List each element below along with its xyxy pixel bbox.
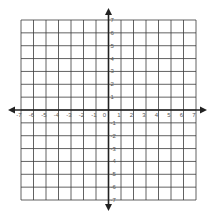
y-tick-label: -1 <box>111 120 117 126</box>
y-tick-label: -5 <box>111 171 117 177</box>
x-tick-label: -5 <box>41 112 47 118</box>
arrow-down-icon <box>105 204 112 211</box>
x-tick-label: -1 <box>91 112 97 118</box>
x-tick-label: -2 <box>79 112 85 118</box>
coordinate-plane: -7-6-5-4-3-2-101234567 7654321-1-2-3-4-5… <box>0 0 211 219</box>
x-tick-label: -4 <box>54 112 60 118</box>
arrow-left-icon <box>8 107 15 114</box>
y-tick-label: -6 <box>111 184 117 190</box>
x-tick-label: 0 <box>103 112 107 118</box>
arrow-right-icon <box>200 107 207 114</box>
x-tick-label: -3 <box>66 112 72 118</box>
axes <box>8 8 207 211</box>
x-tick-label: -6 <box>29 112 35 118</box>
x-axis-labels: -7-6-5-4-3-2-101234567 <box>16 112 196 118</box>
y-tick-label: -4 <box>111 158 117 164</box>
x-tick-label: -7 <box>16 112 22 118</box>
y-tick-label: -3 <box>111 146 117 152</box>
arrow-up-icon <box>105 8 112 15</box>
y-tick-label: -7 <box>111 197 117 203</box>
y-tick-label: -2 <box>111 133 117 139</box>
